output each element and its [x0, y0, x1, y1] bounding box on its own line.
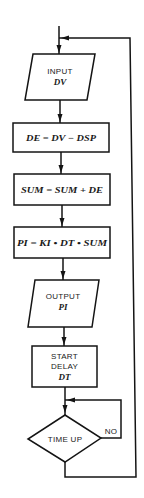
decision-label: TIME UP — [48, 435, 83, 444]
input-variable: DV — [53, 77, 67, 87]
arrowhead-down-icon — [58, 114, 63, 122]
output-node: OUTPUT PI — [28, 280, 99, 327]
delay-line1: START — [51, 352, 78, 361]
arrowhead-left-icon — [61, 36, 69, 41]
arrowhead-down-icon — [59, 165, 64, 173]
pi-controller-flowchart: INPUT DV DE = DV − DSP SUM = SUM + DE PI… — [0, 0, 144, 498]
compute-error-node: DE = DV − DSP — [13, 123, 109, 152]
entry-arrow — [57, 26, 62, 54]
arrow-error-to-sum — [59, 152, 64, 174]
arrowhead-down-icon — [57, 45, 62, 53]
accumulate-formula: SUM = SUM + DE — [21, 185, 103, 195]
arrowhead-left-icon — [67, 398, 75, 403]
no-branch-label: NO — [105, 427, 118, 436]
delay-variable: DT — [58, 372, 71, 382]
output-label: OUTPUT — [46, 292, 81, 301]
compute-error-formula: DE = DV − DSP — [25, 133, 97, 143]
arrow-integral-to-output — [61, 258, 66, 280]
delay-line2: DELAY — [51, 362, 79, 371]
arrow-output-to-delay — [62, 327, 67, 346]
arrowhead-down-icon — [62, 337, 67, 345]
integral-formula: PI = KI • DT • SUM — [17, 238, 108, 248]
arrow-input-to-error — [58, 100, 63, 123]
arrowhead-down-icon — [63, 405, 68, 413]
output-variable: PI — [59, 302, 68, 312]
arrowhead-down-icon — [61, 271, 66, 279]
decision-node: TIME UP — [28, 415, 101, 462]
arrow-sum-to-integral — [60, 205, 65, 227]
accumulate-node: SUM = SUM + DE — [14, 174, 110, 205]
input-node: INPUT DV — [25, 54, 95, 100]
input-label: INPUT — [47, 67, 73, 76]
arrow-delay-to-decision — [63, 387, 68, 415]
arrowhead-down-icon — [60, 218, 65, 226]
integral-node: PI = KI • DT • SUM — [14, 227, 110, 258]
delay-node: START DELAY DT — [32, 346, 97, 387]
